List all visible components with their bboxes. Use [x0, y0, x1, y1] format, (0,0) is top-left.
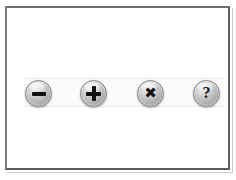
minus-button[interactable] [25, 80, 52, 107]
window-frame: ✖ ? [5, 6, 230, 170]
question-mark-icon: ? [203, 85, 211, 101]
close-x-icon: ✖ [144, 86, 157, 101]
minus-icon [32, 92, 46, 96]
plus-icon [86, 86, 101, 101]
close-button[interactable]: ✖ [137, 80, 164, 107]
plus-button[interactable] [80, 80, 107, 107]
help-button[interactable]: ? [193, 80, 220, 107]
app-canvas: ✖ ? [0, 0, 236, 180]
